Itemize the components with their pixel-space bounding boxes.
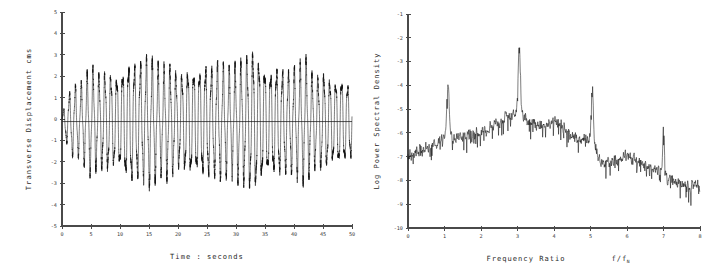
tick-label: 40 [291,231,297,237]
tick-label: -3 [397,58,403,64]
tick-label: 30 [233,231,239,237]
tick-label: 2 [479,233,482,239]
tick-label: 4 [54,30,57,36]
tick-label: 50 [349,231,355,237]
tick-label: 3 [516,233,519,239]
tick-label: -5 [51,223,57,229]
tick-label: 4 [552,233,555,239]
tick-label: -2 [397,35,403,41]
tick-label: 0 [406,233,409,239]
tick-label: -8 [397,177,403,183]
tick-label: 5 [89,231,92,237]
x-axis-title: Time : seconds [170,252,244,261]
tick-label: 15 [146,231,152,237]
tick-label: 25 [204,231,210,237]
tick-label: 8 [698,233,701,239]
tick-label: -4 [51,202,57,208]
x-axis-symbol: f/fN [612,254,631,264]
x-axis-title: Frequency Ratio [486,254,565,263]
tick-label: -3 [51,180,57,186]
tick-label: -1 [397,11,403,17]
tick-label: 3 [54,52,57,58]
tick-label: 1 [54,95,57,101]
psd-trace [408,48,700,206]
tick-label: 7 [662,233,665,239]
tick-label: -1 [51,137,57,143]
tick-label: -2 [51,159,57,165]
spectrum-panel: -10-9-8-7-6-5-4-3-2-1 012345678 Log Powe… [360,0,721,278]
figure-container: -5-4-3-2-1012345 05101520253035404550 Tr… [0,0,721,278]
tick-label: -10 [394,225,403,231]
tick-label: -5 [397,106,403,112]
tick-label: 6 [625,233,628,239]
tick-label: -7 [397,154,403,160]
tick-label: 5 [589,233,592,239]
tick-label: -9 [397,201,403,207]
tick-label: 1 [443,233,446,239]
timeseries-svg: -5-4-3-2-1012345 05101520253035404550 Tr… [0,0,361,278]
tick-label: 0 [54,116,57,122]
tick-label: 45 [320,231,326,237]
spectrum-svg: -10-9-8-7-6-5-4-3-2-1 012345678 Log Powe… [360,0,721,278]
tick-label: 2 [54,73,57,79]
tick-label: 10 [117,231,123,237]
tick-label: -6 [397,130,403,136]
tick-label: 20 [175,231,181,237]
tick-label: 0 [60,231,63,237]
tick-label: 5 [54,9,57,15]
timeseries-panel: -5-4-3-2-1012345 05101520253035404550 Tr… [0,0,361,278]
tick-label: 35 [262,231,268,237]
tick-label: -4 [397,82,403,88]
y-axis-title: Transverse Displacement cms [24,48,33,190]
y-axis-title: Log Power Spectral Density [372,52,381,189]
